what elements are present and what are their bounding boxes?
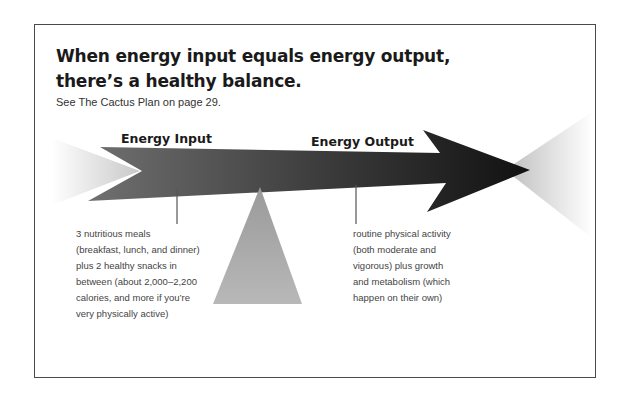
fulcrum-triangle (213, 187, 302, 304)
energy-output-label: Energy Output (311, 134, 414, 149)
output-fade-cone (505, 112, 592, 238)
energy-output-description: routine physical activity (both moderate… (353, 226, 451, 306)
energy-input-label: Energy Input (121, 131, 212, 146)
energy-input-description: 3 nutritious meals (breakfast, lunch, an… (76, 226, 200, 322)
energy-balance-diagram (0, 0, 629, 403)
